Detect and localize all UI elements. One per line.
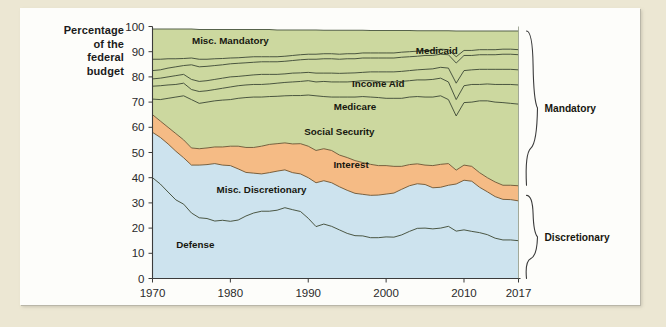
series-label-misc-mandatory: Misc. Mandatory: [192, 35, 269, 46]
y-tick-label-40: 40: [132, 172, 145, 184]
y-tick-label-0: 0: [138, 273, 144, 285]
series-label-defense: Defense: [176, 239, 215, 250]
series-label-medicare: Medicare: [334, 101, 377, 112]
y-tick-label-60: 60: [132, 121, 145, 133]
figure-root: Percentage of the federal budget 0102030…: [0, 0, 666, 327]
x-tick-label-1980: 1980: [218, 287, 244, 299]
brace-discretionary: [526, 195, 537, 278]
brace-label-mandatory: Mandatory: [545, 103, 597, 114]
series-label-income-aid: Income Aid: [352, 78, 404, 89]
series-label-interest: Interest: [333, 159, 369, 170]
x-tick-label-2010: 2010: [451, 287, 477, 299]
series-label-social-security: Social Security: [304, 126, 375, 137]
chart-plot: 0102030405060708090100197019801990200020…: [0, 0, 666, 327]
y-tick-label-10: 10: [132, 247, 145, 259]
area-chart-svg: 0102030405060708090100197019801990200020…: [0, 0, 666, 327]
x-tick-label-1990: 1990: [295, 287, 321, 299]
brace-label-discretionary: Discretionary: [545, 232, 610, 243]
y-tick-label-100: 100: [125, 21, 144, 33]
x-tick-label-1970: 1970: [140, 287, 166, 299]
series-label-misc-discretionary: Misc. Discretionary: [217, 184, 307, 195]
y-tick-label-20: 20: [132, 222, 145, 234]
x-tick-label-2000: 2000: [373, 287, 399, 299]
brace-mandatory: [526, 31, 537, 185]
y-tick-label-30: 30: [132, 197, 145, 209]
series-label-medicaid: Medicaid: [416, 45, 458, 56]
x-tick-label-2017: 2017: [506, 287, 532, 299]
y-tick-label-70: 70: [132, 96, 145, 108]
y-tick-label-80: 80: [132, 71, 145, 83]
y-tick-label-90: 90: [132, 46, 145, 58]
y-tick-label-50: 50: [132, 147, 145, 159]
